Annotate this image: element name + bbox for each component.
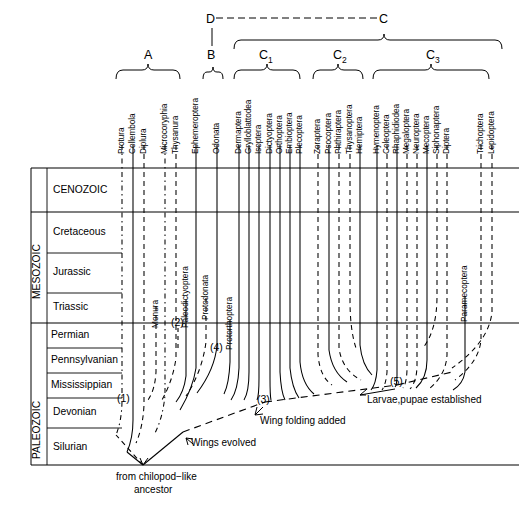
period-label-silurian: Silurian	[53, 441, 87, 452]
origin-caption-line1: from chilopod−like	[116, 471, 197, 482]
diagram-canvas	[0, 0, 519, 510]
period-label-cenozoic: CENOZOIC	[53, 184, 107, 195]
node-label-3: (3)	[257, 393, 270, 405]
taxon-label-trichoptera: Trichoptera	[475, 113, 485, 154]
period-label-cretaceous: Cretaceous	[53, 226, 106, 237]
group-label-c: C	[379, 12, 388, 26]
era-label-paleozoic: PALEOZOIC	[31, 401, 42, 459]
group-braces	[116, 18, 502, 79]
taxon-label-dermaptera: Dermaptera	[233, 111, 243, 154]
taxon-label-odonata: Odonata	[211, 123, 221, 154]
taxon-label-neuroptera: Neuroptera	[411, 113, 421, 154]
era-label-mesozoic: MESOZOIC	[31, 244, 42, 299]
group-label-b: B	[207, 48, 215, 62]
group-label-c3-main: C	[426, 48, 435, 62]
fossil-label-protodonata: Protodonata	[200, 275, 210, 320]
event-label-wing-folding: Wing folding added	[260, 415, 346, 426]
taxon-label-isoptera: Isoptera	[253, 125, 263, 154]
fossil-label-paramecoptera: Paramecoptera	[459, 265, 469, 322]
fossil-label-monura: Monura	[150, 300, 160, 328]
taxon-label-ephemeroptera: Ephemeroptera	[190, 98, 200, 154]
taxon-label-rhaphidiodea: Rhaphidiodea	[391, 104, 401, 154]
lineage-lines	[116, 145, 492, 452]
group-label-c3: C3	[426, 48, 440, 65]
event-label-wings-evolved: Wings evolved	[191, 437, 256, 448]
taxon-label-plecoptera: Plecoptera	[294, 115, 304, 154]
period-label-devonian: Devonian	[53, 406, 97, 417]
group-label-c2: C2	[333, 48, 347, 65]
group-label-c1-main: C	[259, 48, 268, 62]
period-label-triassic: Triassic	[53, 301, 88, 312]
taxon-label-coleoptera: Coleoptera	[381, 114, 391, 154]
taxon-label-grylloblattodea: Grylloblattodea	[243, 100, 253, 154]
node-label-1: (1)	[117, 392, 130, 404]
group-label-c2-sub: 2	[342, 55, 347, 65]
node-label-2: (2)	[171, 316, 184, 328]
group-label-c2-main: C	[333, 48, 342, 62]
period-label-pennsylvanian: Pennsylvanian	[51, 354, 118, 365]
taxon-label-diptera: Diptera	[441, 128, 451, 154]
period-label-jurassic: Jurassic	[53, 266, 91, 277]
origin-caption-line2: ancestor	[134, 483, 172, 496]
taxon-label-psocoptera: Psocoptera	[323, 113, 333, 154]
origin-caption: from chilopod−like ancestor	[116, 470, 197, 496]
taxon-label-orthoptera: Orthoptera	[274, 115, 284, 154]
taxon-label-lepidoptera: Lepidoptera	[486, 111, 496, 154]
taxon-label-phthiraptera: Phthiraptera	[333, 110, 343, 154]
period-label-permian: Permian	[51, 329, 89, 340]
phylogeny-diagram: MESOZOIC PALEOZOIC CENOZOIC Cretaceous J…	[0, 0, 519, 510]
group-label-d: D	[206, 12, 215, 26]
taxon-label-embioptera: Embioptera	[284, 113, 294, 154]
taxon-label-hymenoptera: Hymenoptera	[371, 105, 381, 154]
taxon-label-megaloptera: Megaloptera	[401, 109, 411, 154]
fossil-label-protorthoptera: Protorthoptera	[224, 297, 234, 350]
taxon-label-siphonaptera: Siphonaptera	[431, 106, 441, 154]
taxon-label-zoraptera: Zoraptera	[312, 119, 322, 154]
taxon-label-hemiptera: Hemiptera	[354, 117, 364, 154]
node-label-4: (4)	[210, 341, 223, 353]
taxon-label-dictyoptera: Dictyoptera	[264, 113, 274, 154]
node-label-5: (5)	[390, 375, 403, 387]
taxon-label-thysanoptera: Thysanoptera	[344, 104, 354, 154]
taxon-label-protura: Protura	[116, 127, 126, 154]
group-label-c3-sub: 3	[435, 55, 440, 65]
period-label-mississippian: Mississippian	[51, 379, 112, 390]
group-label-c1: C1	[259, 48, 273, 65]
group-label-a: A	[144, 48, 152, 62]
taxon-label-collembola: Collembola	[127, 113, 137, 154]
taxon-label-microcoryphia: Microcoryphia	[159, 104, 169, 154]
group-label-c1-sub: 1	[268, 55, 273, 65]
taxon-label-thysanura: Thysanura	[170, 116, 180, 154]
taxon-label-diplura: Diplura	[138, 128, 148, 154]
taxon-label-mecoptera: Mecoptera	[421, 116, 431, 154]
event-label-larvae-pupae: Larvae,pupae established	[367, 394, 482, 405]
